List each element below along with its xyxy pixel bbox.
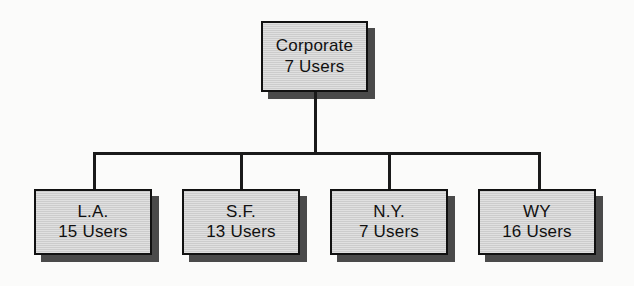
org-node-user-count: 15 Users	[58, 222, 128, 242]
org-node-title: L.A.	[77, 202, 108, 222]
org-node-ny[interactable]: N.Y. 7 Users	[330, 189, 448, 255]
connector-drop-la	[93, 152, 96, 190]
connector-drop-wy	[538, 152, 541, 190]
org-node-title: S.F.	[226, 202, 256, 222]
org-node-title: WY	[523, 202, 551, 222]
connector-horizontal-bus	[93, 152, 541, 155]
connector-drop-ny	[388, 152, 391, 190]
org-node-user-count: 13 Users	[206, 222, 276, 242]
org-node-user-count: 7 Users	[359, 222, 419, 242]
org-node-corporate[interactable]: Corporate 7 Users	[261, 21, 368, 92]
org-chart-canvas: Corporate 7 Users L.A. 15 Users S.F. 13 …	[0, 0, 634, 286]
org-node-la[interactable]: L.A. 15 Users	[34, 189, 152, 255]
org-node-user-count: 7 Users	[285, 57, 345, 77]
org-node-wy[interactable]: WY 16 Users	[478, 189, 596, 255]
org-node-user-count: 16 Users	[502, 222, 572, 242]
connector-drop-sf	[240, 152, 243, 190]
connector-root-stem	[314, 92, 317, 153]
org-node-title: N.Y.	[373, 202, 405, 222]
org-node-sf[interactable]: S.F. 13 Users	[182, 189, 300, 255]
org-node-title: Corporate	[276, 36, 353, 56]
